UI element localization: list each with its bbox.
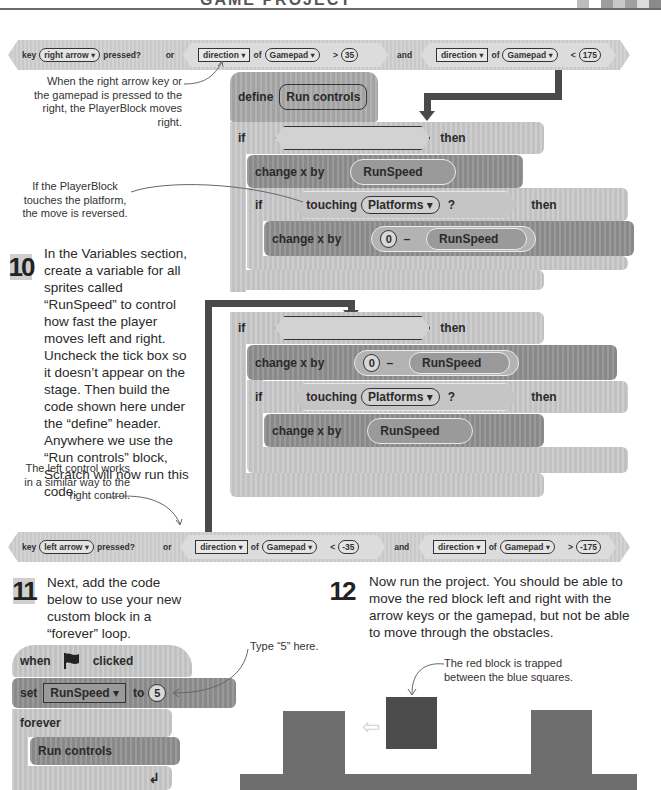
annotation-arrow-icon <box>100 490 190 530</box>
connector-line <box>205 300 212 545</box>
key-dropdown[interactable]: left arrow ▾ <box>39 540 94 554</box>
gamepad-dropdown[interactable]: Gamepad ▾ <box>262 540 317 554</box>
subtract-reporter[interactable]: 0 – RunSpeed <box>354 350 519 376</box>
greater-than-block[interactable]: direction ▾ of Gamepad ▾ > -175 <box>418 535 616 559</box>
change-x-label: change x by <box>272 232 341 246</box>
value-input[interactable]: 35 <box>341 48 358 62</box>
touching-block[interactable]: touching Platforms ▾ ? <box>292 191 517 219</box>
annotation-type-five: Type “5” here. <box>250 640 330 654</box>
swatch <box>649 0 661 8</box>
and-block[interactable]: direction ▾ of Gamepad ▾ < -35 <box>180 535 385 559</box>
right-condition-block[interactable]: key right arrow ▾ pressed? or direction … <box>8 40 630 70</box>
annotation-arrow-icon <box>150 58 230 98</box>
swatch <box>601 0 613 8</box>
condition-slot[interactable] <box>275 316 430 340</box>
header-rule <box>0 8 661 10</box>
value-input[interactable]: 175 <box>579 48 601 62</box>
if-block-end <box>230 473 544 497</box>
platforms-dropdown[interactable]: Platforms ▾ <box>361 388 440 406</box>
change-x-label: change x by <box>272 424 341 438</box>
forever-end: ↲ <box>12 766 172 790</box>
annotation-trapped: The red block is trapped between the blu… <box>444 657 584 684</box>
set-label: set <box>20 686 37 700</box>
clicked-label: clicked <box>93 654 134 668</box>
runspeed-reporter[interactable]: RunSpeed <box>426 228 527 250</box>
touching-label: touching <box>306 390 357 404</box>
forever-label: forever <box>20 716 61 730</box>
inner-if-block[interactable]: if touching Platforms ▾ ? then <box>247 381 628 413</box>
header-color-swatches <box>577 0 661 8</box>
less-than-operator: < <box>330 542 335 552</box>
runspeed-reporter[interactable]: RunSpeed <box>350 159 456 185</box>
green-flag-icon <box>63 652 81 670</box>
minus-operator: – <box>386 356 393 370</box>
left-blue-square <box>283 711 345 790</box>
step-number-12: 12 <box>331 578 353 604</box>
gamepad-dropdown[interactable]: Gamepad ▾ <box>500 540 555 554</box>
touching-label: touching <box>306 198 357 212</box>
subtract-reporter[interactable]: 0 – RunSpeed <box>371 226 536 252</box>
direction-dropdown[interactable]: direction ▾ <box>436 48 489 62</box>
then-label: then <box>531 198 556 212</box>
left-condition-block[interactable]: key left arrow ▾ pressed? or direction ▾… <box>8 532 630 562</box>
or-label: or <box>163 542 172 552</box>
annotation-arrow-icon <box>400 658 450 698</box>
step-number-10: 10 <box>10 254 32 280</box>
less-than-block[interactable]: direction ▾ of Gamepad ▾ < 175 <box>421 43 616 67</box>
step-12-text: Now run the project. You should be able … <box>369 573 644 641</box>
then-label: then <box>440 321 465 335</box>
swatch <box>589 0 601 8</box>
step-number-11: 11 <box>13 578 35 604</box>
right-blue-square <box>531 710 592 790</box>
pressed-label: pressed? <box>97 542 135 552</box>
condition-slot[interactable] <box>275 126 430 150</box>
define-block[interactable]: define Run controls <box>230 72 378 122</box>
greater-than-operator: > <box>568 542 573 552</box>
key-label: key <box>22 542 36 552</box>
forever-block[interactable]: forever <box>12 709 172 737</box>
variable-name: RunSpeed <box>422 356 481 370</box>
value-input[interactable]: -35 <box>338 540 358 554</box>
zero-input[interactable]: 0 <box>363 354 380 372</box>
variable-dropdown[interactable]: RunSpeed ▾ <box>43 683 126 703</box>
greater-than-operator: > <box>333 50 338 60</box>
then-label: then <box>531 390 556 404</box>
change-x-block[interactable]: change x by 0 – RunSpeed <box>247 345 617 380</box>
then-label: then <box>440 131 465 145</box>
run-controls-block[interactable]: Run controls <box>30 737 180 765</box>
connector-line <box>424 93 562 100</box>
zero-input[interactable]: 0 <box>380 230 397 248</box>
swatch <box>613 0 625 8</box>
change-x-block[interactable]: change x by RunSpeed <box>264 414 544 447</box>
runspeed-reporter[interactable]: RunSpeed <box>409 352 510 374</box>
left-arrow-icon: ⇦ <box>362 716 380 738</box>
define-label: define <box>238 90 273 104</box>
less-than-operator: < <box>571 50 576 60</box>
arrow-down-icon <box>419 111 435 121</box>
touching-block[interactable]: touching Platforms ▾ ? <box>292 383 517 411</box>
direction-dropdown[interactable]: direction ▾ <box>433 540 486 554</box>
platforms-dropdown[interactable]: Platforms ▾ <box>361 196 440 214</box>
custom-block-name[interactable]: Run controls <box>279 84 367 110</box>
minus-operator: – <box>403 232 410 246</box>
of-label: of <box>491 50 499 60</box>
gamepad-dropdown[interactable]: Gamepad ▾ <box>502 48 557 62</box>
of-label: of <box>489 542 497 552</box>
variable-name: RunSpeed <box>380 424 439 438</box>
red-player-block <box>386 697 437 749</box>
variable-name: RunSpeed <box>363 165 422 179</box>
if-block-1[interactable]: if then <box>230 122 544 154</box>
if-block-2[interactable]: if then <box>230 312 544 344</box>
annotation-arrow-icon <box>125 180 305 210</box>
connector-line <box>205 300 355 307</box>
question-mark: ? <box>448 198 455 212</box>
change-x-block[interactable]: change x by 0 – RunSpeed <box>264 221 634 256</box>
if-label: if <box>238 131 245 145</box>
key-dropdown[interactable]: right arrow ▾ <box>39 48 100 62</box>
step-11-text: Next, add the code below to use your new… <box>47 574 192 642</box>
runspeed-reporter[interactable]: RunSpeed <box>367 418 473 444</box>
gamepad-dropdown[interactable]: Gamepad ▾ <box>265 48 320 62</box>
direction-dropdown[interactable]: direction ▾ <box>195 540 248 554</box>
if-block-end <box>230 270 544 290</box>
value-input[interactable]: -175 <box>576 540 601 554</box>
